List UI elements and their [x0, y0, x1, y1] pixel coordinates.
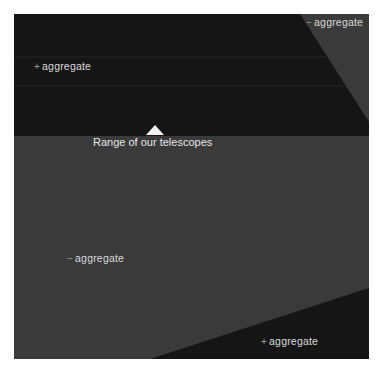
- minus-sign-icon: −: [306, 17, 312, 28]
- label-text: aggregate: [314, 16, 363, 28]
- diagram-stage: +aggregate −aggregate Range of our teles…: [0, 0, 386, 375]
- label-text: aggregate: [75, 252, 124, 264]
- label-text: aggregate: [42, 60, 91, 72]
- label-middle: −aggregate: [67, 252, 124, 265]
- plus-sign-icon: +: [34, 61, 40, 72]
- label-top-right: −aggregate: [306, 16, 363, 29]
- label-text: aggregate: [269, 335, 318, 347]
- diagram-panel: +aggregate −aggregate Range of our teles…: [14, 14, 369, 359]
- range-caption: Range of our telescopes: [93, 136, 212, 149]
- label-bottom-right: +aggregate: [261, 335, 318, 348]
- label-top-left: +aggregate: [34, 60, 91, 73]
- plus-sign-icon: +: [261, 336, 267, 347]
- minus-sign-icon: −: [67, 253, 73, 264]
